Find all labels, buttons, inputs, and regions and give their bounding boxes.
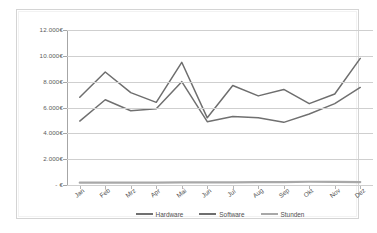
y-axis-tick-label: 12.000€ — [19, 26, 63, 33]
y-axis-tick-label: 6.000€ — [19, 104, 63, 111]
y-axis-tick — [63, 133, 67, 134]
gridline — [67, 30, 373, 31]
legend-swatch-stunden-icon — [261, 213, 278, 215]
x-axis-tick — [335, 186, 336, 189]
y-axis-tick-label: 2.000€ — [19, 155, 63, 162]
y-axis-tick — [63, 185, 67, 186]
x-axis-tick — [207, 186, 208, 189]
gridline — [67, 56, 373, 57]
x-axis-tick — [309, 186, 310, 189]
x-axis-tick — [131, 186, 132, 189]
x-axis-tick — [156, 186, 157, 189]
y-axis-tick — [63, 56, 67, 57]
x-axis-tick-label: Jul — [226, 187, 237, 198]
x-axis-labels: JanFebMrzAprMaiJunJulAugSepOktNovDez — [67, 190, 373, 206]
x-axis-tick — [233, 186, 234, 189]
legend-label: Hardware — [156, 211, 184, 218]
series-line-software[interactable] — [80, 58, 361, 117]
y-axis-tick — [63, 30, 67, 31]
legend-label: Stunden — [281, 211, 305, 218]
y-axis-tick-label: 8.000€ — [19, 78, 63, 85]
y-axis-tick-label: 10.000€ — [19, 52, 63, 59]
screenshot-root: 12.000€10.000€8.000€6.000€4.000€2.000€- … — [0, 0, 377, 233]
legend-swatch-software-icon — [199, 213, 216, 215]
x-axis-tick — [182, 186, 183, 189]
x-axis-tick — [360, 186, 361, 189]
series-line-stunden[interactable] — [80, 182, 361, 183]
legend-item-hardware[interactable]: Hardware — [136, 211, 184, 218]
y-axis-labels: 12.000€10.000€8.000€6.000€4.000€2.000€- … — [17, 10, 63, 233]
y-axis-tick — [63, 82, 67, 83]
gridline — [67, 82, 373, 83]
y-axis-tick-label: - € — [19, 181, 63, 188]
x-axis-tick — [284, 186, 285, 189]
gridline — [67, 185, 373, 186]
legend-item-software[interactable]: Software — [199, 211, 244, 218]
legend-label: Software — [219, 211, 244, 218]
y-axis-tick-label: 4.000€ — [19, 129, 63, 136]
legend-swatch-hardware-icon — [136, 213, 153, 215]
legend-item-stunden[interactable]: Stunden — [261, 211, 305, 218]
x-axis-tick — [105, 186, 106, 189]
chart-legend[interactable]: HardwareSoftwareStunden — [67, 207, 373, 221]
y-axis-tick — [63, 108, 67, 109]
plot-area — [67, 30, 373, 185]
x-axis-tick — [80, 186, 81, 189]
y-axis-tick — [63, 159, 67, 160]
x-axis-tick — [258, 186, 259, 189]
gridline — [67, 133, 373, 134]
gridline — [67, 159, 373, 160]
chart-area[interactable]: 12.000€10.000€8.000€6.000€4.000€2.000€- … — [16, 9, 359, 219]
gridline — [67, 108, 373, 109]
